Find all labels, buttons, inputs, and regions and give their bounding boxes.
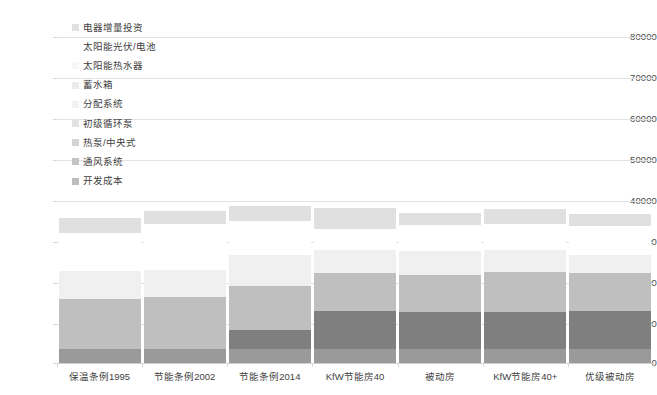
bar-segment[interactable] <box>399 251 481 274</box>
legend-swatch-icon <box>72 62 79 69</box>
bar-segment[interactable] <box>144 224 226 269</box>
bar-segment[interactable] <box>314 250 396 273</box>
bar-segment[interactable] <box>484 312 566 349</box>
bar-segment[interactable] <box>314 208 396 228</box>
x-tick-mark <box>227 363 228 367</box>
bar-segment[interactable] <box>569 349 651 363</box>
x-tick-mark <box>312 363 313 367</box>
bar-segment[interactable] <box>144 297 226 348</box>
x-tick-label: 节能条例2014 <box>227 371 312 383</box>
legend-item[interactable]: 电器增量投资 <box>72 18 222 37</box>
legend-label: 初级循环泵 <box>83 118 133 130</box>
bar-segment[interactable] <box>569 226 651 256</box>
x-tick-mark <box>57 363 58 367</box>
x-tick-mark <box>398 363 399 367</box>
legend-label: 蓄水箱 <box>83 79 113 91</box>
bar-segment[interactable] <box>314 311 396 348</box>
bar-segment[interactable] <box>229 255 311 286</box>
bar-segment[interactable] <box>399 225 481 251</box>
bar-column[interactable] <box>229 37 311 363</box>
bar-segment[interactable] <box>484 272 566 312</box>
legend-item[interactable]: 开发成本 <box>72 172 222 191</box>
legend-label: 通风系统 <box>83 156 123 168</box>
bar-segment[interactable] <box>569 273 651 312</box>
legend-item[interactable]: 热泵/中央式 <box>72 133 222 152</box>
legend-item[interactable]: 太阳能光伏/电池 <box>72 37 222 56</box>
legend-swatch-icon <box>72 43 79 50</box>
x-tick-mark <box>653 363 654 367</box>
legend-swatch-icon <box>72 82 79 89</box>
legend-swatch-icon <box>72 120 79 127</box>
bar-segment[interactable] <box>59 349 141 363</box>
x-tick-label: 节能条例2002 <box>142 371 227 383</box>
bar-column[interactable] <box>314 37 396 363</box>
bar-segment[interactable] <box>484 349 566 363</box>
bar-segment[interactable] <box>399 349 481 363</box>
bar-segment[interactable] <box>59 233 141 270</box>
bar-segment[interactable] <box>399 275 481 312</box>
bar-segment[interactable] <box>569 255 651 272</box>
bar-segment[interactable] <box>314 229 396 250</box>
bar-segment[interactable] <box>229 286 311 331</box>
legend-item[interactable]: 蓄水箱 <box>72 76 222 95</box>
legend-label: 热泵/中央式 <box>83 137 136 149</box>
x-tick-label: KfW节能房40 <box>312 371 397 383</box>
legend-label: 开发成本 <box>83 175 123 187</box>
legend-label: 电器增量投资 <box>83 22 143 34</box>
legend-item[interactable]: 分配系统 <box>72 95 222 114</box>
x-tick-mark <box>568 363 569 367</box>
stacked-bar-chart: 80000 70000 60000 50000 40000 30000 2000… <box>0 0 657 395</box>
bar-segment[interactable] <box>569 214 651 226</box>
x-tick-label: 保温条例1995 <box>57 371 142 383</box>
bar-segment[interactable] <box>144 270 226 298</box>
bar-segment[interactable] <box>399 213 481 225</box>
bar-segment[interactable] <box>484 209 566 224</box>
legend-swatch-icon <box>72 24 79 31</box>
bar-segment[interactable] <box>314 273 396 311</box>
bar-segment[interactable] <box>59 299 141 349</box>
bar-segment[interactable] <box>484 250 566 272</box>
bar-segment[interactable] <box>399 312 481 349</box>
legend-label: 太阳能热水器 <box>83 60 143 72</box>
x-tick-mark <box>142 363 143 367</box>
bar-segment[interactable] <box>59 271 141 299</box>
legend-item[interactable]: 通风系统 <box>72 152 222 171</box>
bar-segment[interactable] <box>229 221 311 254</box>
x-tick-label: KfW节能房40+ <box>483 371 568 383</box>
chart-legend: 电器增量投资太阳能光伏/电池太阳能热水器蓄水箱分配系统初级循环泵热泵/中央式通风… <box>72 18 222 191</box>
legend-item[interactable]: 太阳能热水器 <box>72 56 222 75</box>
legend-swatch-icon <box>72 139 79 146</box>
bar-segment[interactable] <box>144 211 226 224</box>
bar-column[interactable] <box>399 37 481 363</box>
bar-segment[interactable] <box>59 218 141 233</box>
bar-segment[interactable] <box>229 349 311 363</box>
bar-segment[interactable] <box>144 349 226 363</box>
bar-segment[interactable] <box>484 224 566 250</box>
x-axis-line <box>57 363 653 364</box>
legend-label: 太阳能光伏/电池 <box>83 41 156 53</box>
legend-swatch-icon <box>72 178 79 185</box>
bar-segment[interactable] <box>314 349 396 363</box>
x-tick-mark <box>483 363 484 367</box>
bar-column[interactable] <box>569 37 651 363</box>
bar-segment[interactable] <box>229 206 311 221</box>
legend-swatch-icon <box>72 158 79 165</box>
legend-swatch-icon <box>72 101 79 108</box>
x-tick-label: 被动房 <box>398 371 483 383</box>
bar-column[interactable] <box>484 37 566 363</box>
x-tick-label: 优级被动房 <box>568 371 653 383</box>
legend-label: 分配系统 <box>83 98 123 110</box>
bar-segment[interactable] <box>569 311 651 348</box>
legend-item[interactable]: 初级循环泵 <box>72 114 222 133</box>
bar-segment[interactable] <box>229 330 311 348</box>
